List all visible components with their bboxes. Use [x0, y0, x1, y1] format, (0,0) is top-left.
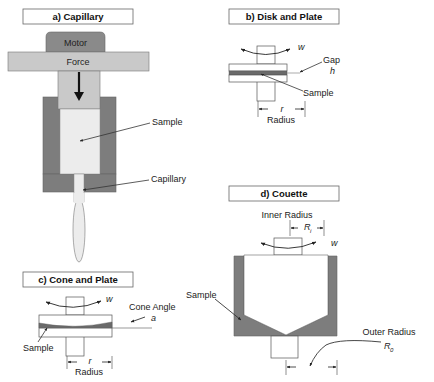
cone-radius-label: Radius: [75, 367, 104, 377]
cone-angle-pointer: [131, 317, 145, 322]
motor-label: Motor: [64, 38, 87, 48]
disk-sample-layer: [229, 71, 287, 75]
cup-shaft-bottom: [271, 336, 298, 358]
disk-sample-label: Sample: [303, 88, 334, 98]
title-capillary: a) Capillary: [52, 11, 104, 22]
disk-radius-symbol: r: [281, 104, 285, 114]
cone-plate-shaft-bottom: [66, 336, 84, 356]
gap-label: Gap: [323, 55, 340, 65]
bob-shaft: [274, 238, 302, 255]
inner-radius-label: Inner Radius: [261, 210, 313, 220]
cone-radius-symbol: r: [89, 356, 93, 366]
gap-symbol: h: [330, 66, 335, 76]
capillary-sample: [60, 109, 100, 174]
force-label: Force: [66, 57, 89, 67]
disk-radius-label: Radius: [267, 115, 296, 125]
panel-cone-plate: c) Cone and Plate w Cone Angle a Sample …: [23, 272, 176, 377]
cone-rotation-symbol: w: [106, 294, 113, 304]
panel-couette: d) Couette Inner Radius R i w Sample Out…: [186, 186, 416, 375]
cone-angle-label: Cone Angle: [129, 302, 176, 312]
title-disk-plate: b) Disk and Plate: [246, 11, 323, 22]
capillary-sample-label: Sample: [152, 117, 183, 127]
capillary-needle: [73, 198, 85, 262]
inner-radius-subscript: i: [310, 228, 312, 234]
plate-shaft-bottom: [257, 81, 275, 101]
rheometer-diagram: a) Capillary Motor Force Sample Capillar…: [0, 0, 434, 382]
cone-sample-label: Sample: [23, 343, 54, 353]
capillary-label: Capillary: [151, 174, 187, 184]
outer-radius-pointer: [310, 341, 381, 366]
cone-shaft-top: [66, 297, 84, 315]
title-couette: d) Couette: [261, 188, 308, 199]
disk-rotation-symbol: w: [298, 42, 305, 52]
panel-disk-plate: b) Disk and Plate w Gap h Sample r Radiu…: [229, 9, 340, 125]
top-disk: [229, 64, 287, 71]
couette-sample-label: Sample: [186, 290, 217, 300]
disk-shaft-top: [257, 46, 275, 64]
couette-rotation-symbol: w: [331, 238, 338, 248]
cone-angle-symbol: a: [151, 313, 156, 323]
panel-capillary: a) Capillary Motor Force Sample Capillar…: [8, 9, 187, 262]
outer-radius-subscript: 0: [390, 347, 394, 353]
gap-pointer-arrow: [300, 62, 322, 72]
outer-radius-label: Outer Radius: [362, 327, 416, 337]
title-cone-plate: c) Cone and Plate: [38, 274, 118, 285]
